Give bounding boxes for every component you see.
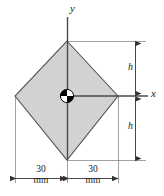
centroid-marker [60, 89, 73, 102]
dimension-value-right: 30 [79, 165, 107, 175]
dimension-unit-right: mm [79, 176, 107, 186]
dimension-label-30mm-right: 30 mm [79, 165, 107, 185]
figure-container: y x h h 30 mm 30 mm [0, 0, 164, 196]
dimension-label-h-upper: h [128, 62, 133, 72]
dimension-value-left: 30 [27, 165, 55, 175]
x-axis-label: x [151, 88, 156, 99]
dimension-label-h-lower: h [128, 121, 133, 131]
dimension-unit-left: mm [27, 176, 55, 186]
dimension-label-30mm-left: 30 mm [27, 165, 55, 185]
y-axis-label: y [70, 3, 75, 14]
